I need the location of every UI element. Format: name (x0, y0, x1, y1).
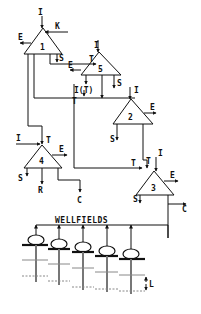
node-3-label: 3 (151, 184, 156, 193)
label-n3-c: C (182, 205, 187, 214)
label-n4-s: S (18, 174, 23, 183)
node-2-triangle (113, 99, 153, 124)
label-n1-s: S (59, 54, 64, 63)
label-t-mid: T (72, 97, 77, 106)
label-n3-i: I (158, 149, 163, 158)
label-n4-i: I (16, 134, 21, 143)
label-n2-s: S (110, 135, 115, 144)
label-n4-r: R (38, 186, 43, 195)
label-n5-it: I(T) (74, 86, 93, 95)
label-n5-t: T (89, 55, 94, 64)
label-n3-t1: T (131, 159, 136, 168)
label-n2-i: I (134, 86, 139, 95)
label-n5-s: S (117, 79, 122, 88)
label-n4-c: C (77, 196, 82, 205)
label-n3-t2: T (146, 157, 151, 166)
label-n3-e: E (170, 171, 175, 180)
node-5-label: 5 (98, 65, 103, 74)
label-n3-s: S (133, 195, 138, 204)
label-n1-k: K (55, 22, 60, 31)
wellfield-system-diagram: I K E 1 S I T E 5 S I(T) T I E 2 S I T E… (0, 0, 201, 314)
node-2-label: 2 (128, 113, 133, 122)
wellfields-title: WELLFIELDS (55, 216, 108, 225)
label-n2-e: E (150, 103, 155, 112)
node-4-label: 4 (39, 157, 44, 166)
label-n1-e: E (18, 33, 23, 42)
label-n5-i: I (94, 41, 99, 50)
wells (22, 225, 146, 294)
label-level-l: L (149, 280, 154, 289)
label-n1-i: I (38, 8, 43, 17)
label-n4-t: T (46, 136, 51, 145)
node-1-label: 1 (40, 43, 45, 52)
label-n5-e: E (68, 61, 73, 70)
label-n4-e: E (59, 145, 64, 154)
